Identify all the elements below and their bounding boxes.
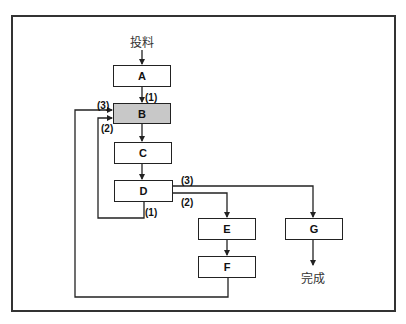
edge-label-a-to-b: (1) bbox=[145, 93, 157, 103]
edge-label-d-out-3: (3) bbox=[181, 176, 193, 186]
node-d-label: D bbox=[140, 185, 148, 197]
node-b: B bbox=[113, 103, 171, 124]
node-e-label: E bbox=[223, 223, 230, 235]
edge-label-d-out-1: (1) bbox=[145, 208, 157, 218]
start-label: 投料 bbox=[130, 37, 154, 49]
node-d: D bbox=[114, 180, 173, 202]
node-a-label: A bbox=[138, 70, 146, 82]
flow-diagram: 投料 A B C D E F G 完成 (1) (3) (2) (3) (2) … bbox=[0, 0, 406, 324]
node-g: G bbox=[285, 218, 343, 240]
node-c-label: C bbox=[139, 147, 147, 159]
edge-label-d-out-2: (2) bbox=[181, 198, 193, 208]
edge-label-b-in-2: (2) bbox=[101, 124, 113, 134]
node-f-label: F bbox=[224, 261, 231, 273]
node-b-label: B bbox=[138, 108, 146, 120]
node-c: C bbox=[114, 142, 172, 164]
edge-label-b-in-3: (3) bbox=[97, 101, 109, 111]
node-f: F bbox=[198, 256, 256, 278]
node-g-label: G bbox=[310, 223, 319, 235]
node-e: E bbox=[198, 218, 256, 240]
node-a: A bbox=[113, 65, 171, 87]
end-label: 完成 bbox=[301, 273, 325, 285]
